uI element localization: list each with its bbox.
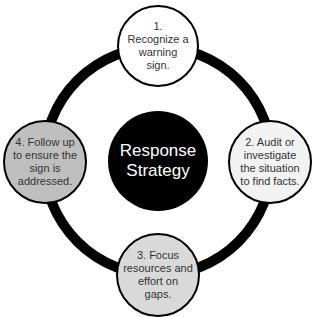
step-1-node: 1. Recognize a warning sign. (117, 5, 199, 87)
center-node: Response Strategy (108, 111, 208, 211)
step-1-label: 1. Recognize a warning sign. (126, 20, 190, 72)
step-4-node: 4. Follow up to ensure the sign is addre… (3, 120, 87, 204)
step-2-node: 2. Audit or investigate the situation to… (228, 120, 312, 204)
step-3-label: 3. Focus resources and effort on gaps. (123, 249, 193, 301)
step-4-label: 4. Follow up to ensure the sign is addre… (12, 136, 78, 188)
step-2-label: 2. Audit or investigate the situation to… (235, 136, 305, 188)
cycle-diagram: Response Strategy 1. Recognize a warning… (0, 0, 315, 317)
step-3-node: 3. Focus resources and effort on gaps. (116, 233, 200, 317)
center-label: Response Strategy (118, 141, 198, 181)
